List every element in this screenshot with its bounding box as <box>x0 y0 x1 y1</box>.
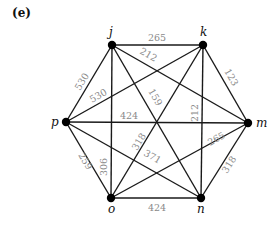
weighted-complete-graph: 265 212 159 306 530 530 123 212 318 424 … <box>0 0 279 225</box>
node-j <box>108 41 116 49</box>
weight-k-n: 212 <box>189 104 200 122</box>
edge-j-o <box>111 45 112 198</box>
edge-p-m <box>66 122 248 123</box>
weight-m-o: 265 <box>206 129 227 147</box>
weight-p-m: 424 <box>120 110 138 121</box>
edge-k-n <box>201 45 203 198</box>
node-o <box>107 194 115 202</box>
node-label-p: p <box>51 115 59 129</box>
weight-j-o: 306 <box>98 158 109 176</box>
node-label-o: o <box>108 202 115 216</box>
node-label-k: k <box>200 25 207 39</box>
node-n <box>197 194 205 202</box>
node-label-j: j <box>106 25 113 39</box>
node-label-m: m <box>256 116 267 130</box>
node-m <box>244 119 252 127</box>
node-k <box>199 41 207 49</box>
weight-j-p: 530 <box>72 71 91 92</box>
weight-p-n: 371 <box>142 147 163 166</box>
edge-k-m <box>203 45 248 123</box>
weight-m-n: 318 <box>219 154 238 175</box>
weight-j-k: 265 <box>148 32 166 43</box>
weight-o-n: 424 <box>148 202 166 213</box>
weight-j-n: 159 <box>146 87 165 108</box>
weight-p-o: 259 <box>76 150 95 171</box>
node-p <box>62 118 70 126</box>
edges <box>66 45 248 198</box>
weight-k-p: 530 <box>88 86 109 105</box>
node-label-n: n <box>197 202 205 216</box>
